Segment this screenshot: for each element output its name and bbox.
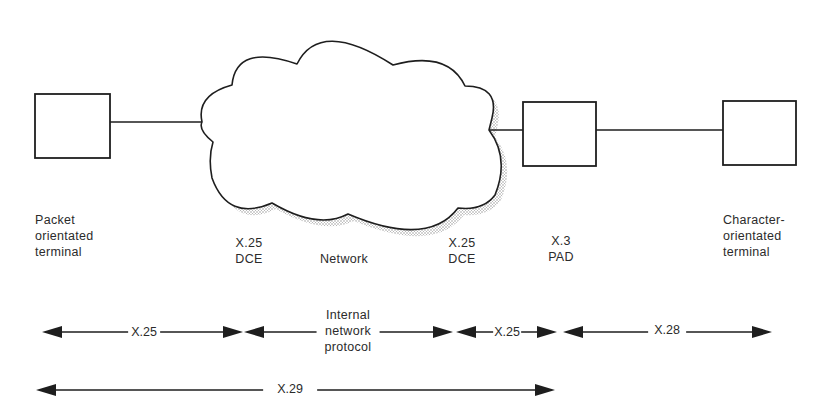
dce-right-label: X.25 DCE — [448, 235, 475, 267]
arrowhead-right-icon — [535, 384, 555, 396]
arrowhead-right-icon — [223, 326, 243, 338]
span-x25-left-label: X.25 — [128, 325, 160, 339]
span-x29-label: X.29 — [263, 382, 317, 396]
pad-box — [523, 102, 596, 166]
arrowhead-left-icon — [563, 326, 583, 338]
x25-network-diagram — [0, 0, 833, 419]
network-label: Network — [320, 251, 368, 267]
span-x28-label: X.28 — [648, 323, 686, 337]
arrowhead-right-icon — [752, 326, 772, 338]
pad-label: X.3 PAD — [548, 233, 574, 265]
char-terminal-label: Character- orientated terminal — [723, 212, 785, 260]
packet-terminal-label: Packet orientated terminal — [35, 212, 94, 260]
internal-protocol-label: Internal network protocol — [317, 307, 380, 355]
arrowhead-left-icon — [244, 326, 264, 338]
arrowhead-left-icon — [42, 326, 62, 338]
arrowhead-left-icon — [36, 384, 56, 396]
span-x25-right-label: X.25 — [493, 325, 521, 339]
dce-left-label: X.25 DCE — [235, 235, 262, 267]
char-terminal-box — [723, 101, 796, 165]
arrowhead-left-icon — [456, 326, 476, 338]
arrowhead-right-icon — [433, 326, 453, 338]
arrowhead-right-icon — [537, 326, 557, 338]
network-cloud — [201, 41, 501, 229]
packet-terminal-box — [35, 94, 110, 158]
